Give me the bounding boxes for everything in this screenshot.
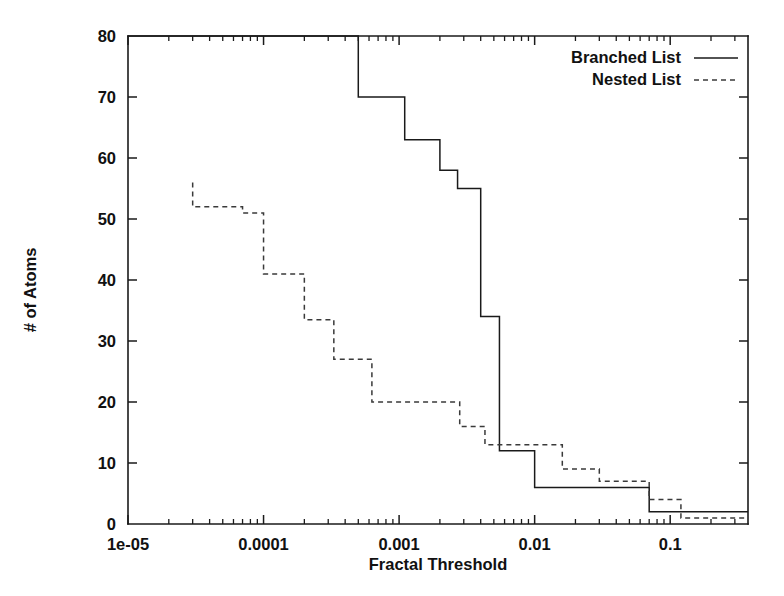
y-tick-label: 70 [98, 88, 116, 106]
x-tick-label: 0.0001 [238, 535, 288, 553]
y-tick-label: 30 [98, 332, 116, 350]
y-tick-label: 50 [98, 210, 116, 228]
y-tick-label: 0 [107, 515, 116, 533]
y-axis-tick-labels: 01020304050607080 [98, 27, 116, 533]
y-tick-label: 80 [98, 27, 116, 45]
legend-label-nested-list: Nested List [592, 70, 681, 88]
legend-label-branched-list: Branched List [571, 48, 682, 66]
x-tick-label: 1e-05 [107, 535, 149, 553]
plot-frame [128, 36, 748, 524]
y-tick-label: 40 [98, 271, 116, 289]
y-axis-ticks [128, 97, 748, 463]
series-branched-list [128, 36, 748, 512]
x-axis-label: Fractal Threshold [369, 555, 507, 573]
line-chart: 1e-050.00010.0010.010.1 0102030405060708… [0, 0, 784, 596]
y-tick-label: 10 [98, 454, 116, 472]
x-tick-label: 0.01 [519, 535, 551, 553]
x-tick-label: 0.1 [659, 535, 682, 553]
x-tick-label: 0.001 [378, 535, 419, 553]
data-series-group [128, 36, 748, 518]
y-tick-label: 60 [98, 149, 116, 167]
x-axis-tick-labels: 1e-050.00010.0010.010.1 [107, 535, 682, 553]
chart-figure: 1e-050.00010.0010.010.1 0102030405060708… [0, 0, 784, 596]
y-axis-label: # of Atoms [21, 248, 39, 333]
y-tick-label: 20 [98, 393, 116, 411]
x-axis-ticks [128, 36, 735, 524]
series-nested-list [193, 182, 748, 518]
chart-legend: Branched List Nested List [571, 48, 738, 88]
